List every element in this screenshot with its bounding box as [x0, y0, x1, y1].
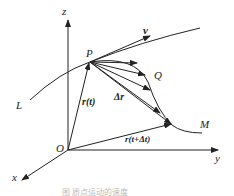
label-r-t: r(t) [82, 97, 95, 107]
label-P: P [86, 48, 93, 59]
x-axis [22, 150, 68, 180]
label-delta-r: Δr [114, 92, 124, 102]
chord-vector-3 [90, 62, 150, 90]
label-Q: Q [154, 70, 162, 81]
label-origin: O [56, 143, 64, 154]
position-vector-rt-dt [68, 124, 171, 150]
label-y: y [215, 153, 220, 164]
trajectory-curve-lower [90, 61, 202, 133]
label-v: v [143, 25, 148, 36]
label-z: z [62, 6, 66, 17]
trajectory-curve-upper [30, 28, 200, 100]
figure-caption: 图 质点运动的速度 [62, 186, 128, 196]
velocity-vector [90, 36, 150, 62]
label-L: L [16, 100, 22, 111]
label-M: M [200, 119, 209, 130]
label-r-t-dt: r(t+Δt) [125, 135, 150, 144]
chord-vector-1 [90, 62, 137, 63]
label-x: x [12, 172, 17, 183]
